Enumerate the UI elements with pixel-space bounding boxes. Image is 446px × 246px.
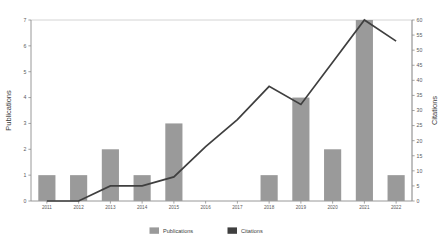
y-tick-label-right: 40 [417,77,423,83]
x-tick-label: 2017 [232,205,243,210]
legend-label-publications: Publications [163,228,193,234]
y-tick-label-right: 60 [417,17,423,23]
y-tick-label-left: 7 [24,17,27,23]
y-tick-label-left: 1 [24,172,27,178]
y-axis-title-right: Citations [430,96,439,125]
x-tick-label: 2011 [42,205,52,210]
y-tick-label-right: 35 [417,92,423,98]
y-axis-left: 01234567 [24,17,31,204]
y-tick-label-left: 6 [24,43,27,49]
legend-swatch-publications [150,227,160,233]
line-series-citations [47,20,396,201]
y-tick-label-right: 55 [417,32,423,38]
x-tick-label: 2020 [328,205,339,210]
bar-2012 [70,175,87,201]
bar-2019 [292,98,309,201]
y-tick-label-right: 30 [417,107,423,113]
bar-2018 [261,175,278,201]
chart-legend: PublicationsCitations [150,227,263,234]
y-tick-label-left: 3 [24,120,27,126]
bar-2015 [165,123,182,201]
y-tick-label-right: 20 [417,138,423,144]
bar-2013 [102,149,119,201]
y-tick-label-right: 0 [417,198,420,204]
bar-2014 [134,175,151,201]
y-tick-label-left: 2 [24,146,27,152]
x-tick-label: 2012 [74,205,85,210]
x-axis: 2011201220132014201520162017201820192020… [31,201,412,210]
bar-2020 [324,149,341,201]
bar-2021 [356,20,373,201]
x-tick-label: 2018 [264,205,275,210]
x-tick-label: 2013 [105,205,116,210]
legend-swatch-citations [228,227,238,233]
x-tick-label: 2015 [169,205,180,210]
y-tick-label-left: 4 [24,94,27,100]
x-tick-label: 2021 [359,205,370,210]
y-tick-label-right: 25 [417,122,423,128]
y-tick-label-left: 5 [24,69,27,75]
y-tick-label-right: 50 [417,47,423,53]
publications-citations-chart: 0123456705101520253035404550556020112012… [0,0,446,246]
bar-2011 [38,175,55,201]
legend-label-citations: Citations [241,228,263,234]
y-tick-label-left: 0 [24,198,27,204]
y-tick-label-right: 10 [417,168,423,174]
x-tick-label: 2016 [201,205,212,210]
y-axis-title-left: Publications [4,90,13,131]
y-tick-label-right: 45 [417,62,423,68]
x-tick-label: 2019 [296,205,307,210]
y-axis-right: 051015202530354045505560 [412,17,422,204]
y-tick-label-right: 15 [417,153,423,159]
x-tick-label: 2022 [391,205,402,210]
bar-series-publications [38,20,404,201]
y-tick-label-right: 5 [417,183,420,189]
chart-canvas: 0123456705101520253035404550556020112012… [0,0,446,246]
bar-2022 [388,175,405,201]
plot-frame [31,20,412,201]
x-tick-label: 2014 [137,205,148,210]
